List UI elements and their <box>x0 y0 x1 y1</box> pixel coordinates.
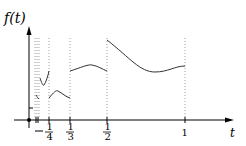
function-curves <box>36 40 185 99</box>
curve-segment-half-to-one <box>107 40 185 72</box>
curve-segment-quarter-to-third <box>49 91 70 98</box>
svg-text:2: 2 <box>105 131 111 142</box>
svg-text:4: 4 <box>47 131 53 142</box>
origin-dot <box>27 118 31 122</box>
curve-segment-small <box>36 95 39 99</box>
tick-label-third: 1 3 <box>66 121 74 142</box>
tick-label-half: 1 2 <box>103 121 111 142</box>
y-axis-label: f(t) <box>3 10 26 26</box>
curve-segment-third-to-half <box>70 65 107 71</box>
x-axis-label: t <box>230 126 235 140</box>
svg-text:3: 3 <box>68 131 74 142</box>
curve-segment-fifth-to-quarter <box>40 71 49 85</box>
tick-label-quarter: 1 4 <box>45 121 53 142</box>
x-axis-arrow-icon <box>225 118 234 123</box>
y-axis-arrow-icon <box>27 26 32 35</box>
tick-label-one: 1 <box>182 127 188 138</box>
piecewise-plot: f(t) t 1 4 1 3 1 2 1 <box>0 0 246 146</box>
dotted-guides <box>35 38 185 120</box>
